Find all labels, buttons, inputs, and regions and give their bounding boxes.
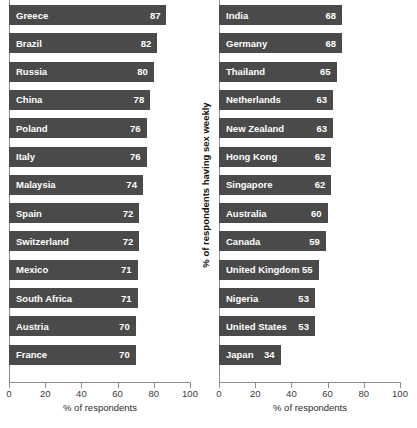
x-axis-tick-label: 100 (392, 388, 408, 399)
bar-value-label: 76 (130, 151, 141, 162)
bar-row: China78 (9, 90, 150, 110)
bar-value-label: 68 (326, 10, 337, 21)
bar-category-label: Italy (16, 151, 35, 162)
bar: Australia60 (219, 203, 328, 223)
bar-category-label: Germany (226, 38, 267, 49)
bar-row: United States53 (219, 316, 315, 336)
x-axis-tick-label: 80 (359, 388, 370, 399)
bar: Germany68 (219, 33, 342, 53)
bar-value-label: 72 (123, 208, 134, 219)
plot-area-right: India68Germany68Thailand65Netherlands63N… (219, 0, 400, 378)
x-axis-label-left: % of respondents (9, 402, 191, 413)
bar: Switzerland72 (9, 231, 139, 251)
x-axis-tick-label: 40 (286, 388, 297, 399)
bar: Malaysia74 (9, 175, 143, 195)
bar-category-label: India (226, 10, 248, 21)
bar-value-label: 62 (315, 151, 326, 162)
x-axis-tick-label: 0 (216, 388, 221, 399)
bar: Mexico71 (9, 260, 138, 280)
bar-row: Mexico71 (9, 260, 138, 280)
bar-value-label: 78 (134, 94, 145, 105)
bar-value-label: 80 (137, 66, 148, 77)
bar-row: Japan34 (219, 345, 281, 365)
y-axis-label-container: % of respondents having sex weekly (200, 0, 210, 428)
bar-row: United Kingdom55 (219, 260, 319, 280)
bar: Singapore62 (219, 175, 331, 195)
bar-row: Switzerland72 (9, 231, 139, 251)
bar-category-label: Austria (16, 321, 49, 332)
bar-category-label: Malaysia (16, 179, 56, 190)
bar-row: Hong Kong62 (219, 147, 331, 167)
bar-category-label: United Kingdom (226, 264, 299, 275)
bar-row: Italy76 (9, 147, 147, 167)
bar-category-label: Singapore (226, 179, 272, 190)
bar-row: Thailand65 (219, 62, 337, 82)
bar-value-label: 70 (119, 321, 130, 332)
bar-row: Netherlands63 (219, 90, 333, 110)
bar-category-label: Hong Kong (226, 151, 277, 162)
bar-category-label: South Africa (16, 293, 72, 304)
bar-row: Canada59 (219, 231, 326, 251)
bar: Brazil82 (9, 33, 157, 53)
bar-row: France70 (9, 345, 136, 365)
bar-value-label: 71 (121, 264, 132, 275)
bar: Austria70 (9, 316, 136, 336)
bar-category-label: Russia (16, 66, 47, 77)
bar-row: Nigeria53 (219, 288, 315, 308)
bar: Canada59 (219, 231, 326, 251)
bar: China78 (9, 90, 150, 110)
x-axis-tick-label: 0 (6, 388, 11, 399)
chart-panel-right: India68Germany68Thailand65Netherlands63N… (210, 0, 417, 428)
bar-value-label: 59 (309, 236, 320, 247)
bar-category-label: Japan (226, 349, 253, 360)
bar-value-label: 60 (311, 208, 322, 219)
bar-value-label: 65 (320, 66, 331, 77)
bar: Greece87 (9, 5, 166, 25)
bar-value-label: 62 (315, 179, 326, 190)
chart-panel-left: Greece87Brazil82Russia80China78Poland76I… (0, 0, 200, 428)
bar-value-label: 53 (298, 321, 309, 332)
bar-chart-figure: Greece87Brazil82Russia80China78Poland76I… (0, 0, 417, 428)
bar-category-label: Switzerland (16, 236, 69, 247)
bar-value-label: 72 (123, 236, 134, 247)
x-axis-tick-label: 80 (149, 388, 160, 399)
bar: United States53 (219, 316, 315, 336)
bar-value-label: 71 (121, 293, 132, 304)
bar: Spain72 (9, 203, 139, 223)
bar: Poland76 (9, 118, 147, 138)
bar-row: Malaysia74 (9, 175, 143, 195)
bar-category-label: Greece (16, 10, 48, 21)
bar-value-label: 68 (326, 38, 337, 49)
bar-row: Spain72 (9, 203, 139, 223)
bar-value-label: 76 (130, 123, 141, 134)
bar: South Africa71 (9, 288, 138, 308)
x-axis-tick-label: 20 (250, 388, 261, 399)
bar-category-label: Thailand (226, 66, 265, 77)
bar-category-label: Nigeria (226, 293, 258, 304)
bar-category-label: China (16, 94, 42, 105)
bar-value-label: 63 (316, 123, 327, 134)
x-axis-tick-label: 60 (322, 388, 333, 399)
bar-category-label: New Zealand (226, 123, 284, 134)
bar: United Kingdom55 (219, 260, 319, 280)
bar: Netherlands63 (219, 90, 333, 110)
bar: Italy76 (9, 147, 147, 167)
bar-row: South Africa71 (9, 288, 138, 308)
x-axis-line-left (9, 382, 191, 383)
bar-value-label: 34 (264, 349, 275, 360)
bar-category-label: Spain (16, 208, 42, 219)
bar: Thailand65 (219, 62, 337, 82)
bar: Nigeria53 (219, 288, 315, 308)
x-axis-line-right (219, 382, 401, 383)
bar-category-label: France (16, 349, 47, 360)
bar: Japan34 (219, 345, 281, 365)
bar: New Zealand63 (219, 118, 333, 138)
bar-category-label: Canada (226, 236, 260, 247)
bar-value-label: 53 (298, 293, 309, 304)
bar-category-label: Poland (16, 123, 48, 134)
y-axis-label: % of respondents having sex weekly (200, 102, 211, 267)
bar-rows-left: Greece87Brazil82Russia80China78Poland76I… (9, 0, 190, 328)
bar-row: Greece87 (9, 5, 166, 25)
bar-row: Austria70 (9, 316, 136, 336)
bar-value-label: 87 (150, 10, 161, 21)
